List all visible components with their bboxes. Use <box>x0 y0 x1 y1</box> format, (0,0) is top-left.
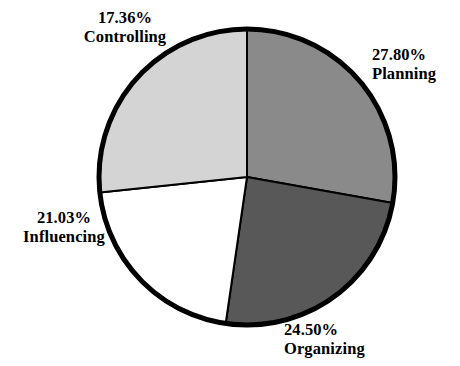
slice-name-planning: Planning <box>372 64 460 83</box>
slice-percent-influencing: 21.03% <box>2 208 126 227</box>
slice-name-influencing: Influencing <box>2 227 126 246</box>
slice-percent-organizing: 24.50% <box>284 320 434 339</box>
slice-label-influencing: 21.03% Influencing <box>2 208 126 247</box>
slice-label-controlling: 17.36% Controlling <box>50 8 200 47</box>
pie-slice-organizing[interactable] <box>226 177 393 325</box>
slice-percent-planning: 27.80% <box>372 45 460 64</box>
slice-name-controlling: Controlling <box>50 27 200 46</box>
slice-percent-controlling: 17.36% <box>50 8 200 27</box>
slice-name-organizing: Organizing <box>284 339 434 358</box>
pie-slice-controlling[interactable] <box>99 29 247 192</box>
slice-label-planning: 27.80% Planning <box>372 45 460 84</box>
pie-slice-influencing[interactable] <box>100 177 247 323</box>
pie-chart: 17.36% Controlling 27.80% Planning 21.03… <box>0 0 460 366</box>
slice-label-organizing: 24.50% Organizing <box>284 320 434 359</box>
